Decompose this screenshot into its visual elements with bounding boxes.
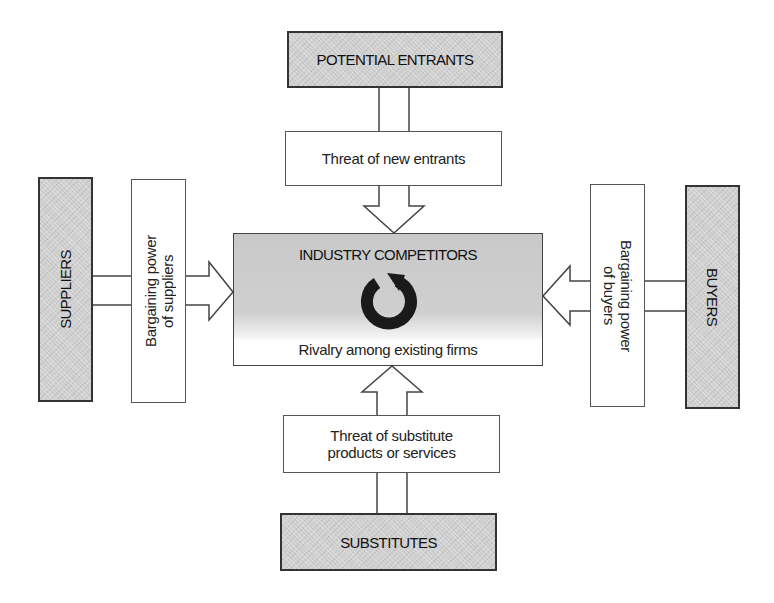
suppliers-label: SUPPLIERS (57, 250, 74, 329)
bargaining-buyers-box: Bargaining power of buyers (590, 184, 645, 407)
bargaining-buyers-line1: Bargaining power (618, 240, 635, 352)
suppliers-box: SUPPLIERS (38, 177, 93, 402)
circular-arrow-icon (357, 269, 419, 331)
bargaining-suppliers-box: Bargaining power of suppliers (131, 179, 186, 403)
bargaining-buyers-label: Bargaining power of buyers (601, 240, 635, 352)
bargaining-suppliers-line2: of suppliers (159, 254, 176, 327)
threat-new-entrants-box: Threat of new entrants (285, 131, 502, 186)
buyers-label: BUYERS (704, 268, 721, 326)
arrow-down-icon (364, 186, 424, 233)
substitutes-box: SUBSTITUTES (280, 513, 497, 571)
industry-competitors-box: INDUSTRY COMPETITORS Rivalry among exist… (233, 233, 543, 366)
threat-substitutes-box: Threat of substitute products or service… (283, 415, 500, 473)
threat-new-entrants-label: Threat of new entrants (322, 150, 465, 167)
bargaining-suppliers-label: Bargaining power of suppliers (142, 235, 176, 347)
buyers-box: BUYERS (685, 185, 740, 409)
bargaining-buyers-line2: of buyers (601, 266, 618, 325)
arrow-up-icon (362, 366, 422, 415)
industry-competitors-label: INDUSTRY COMPETITORS (299, 246, 477, 263)
potential-entrants-label: POTENTIAL ENTRANTS (317, 51, 474, 68)
potential-entrants-box: POTENTIAL ENTRANTS (287, 31, 503, 88)
rivalry-label: Rivalry among existing firms (298, 341, 477, 358)
threat-substitutes-line1: Threat of substitute (330, 427, 452, 444)
threat-substitutes-line2: products or services (327, 444, 455, 461)
substitutes-label: SUBSTITUTES (340, 534, 437, 551)
arrow-right-icon (186, 262, 233, 320)
bargaining-suppliers-line1: Bargaining power (142, 235, 159, 347)
arrow-left-icon (543, 266, 590, 325)
